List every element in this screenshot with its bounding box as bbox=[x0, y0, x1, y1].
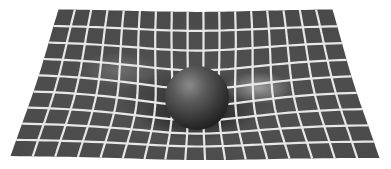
spacetime-illustration bbox=[0, 0, 391, 169]
sphere-body bbox=[165, 66, 229, 130]
sphere bbox=[165, 66, 229, 130]
warped-grid-canvas bbox=[0, 0, 391, 169]
